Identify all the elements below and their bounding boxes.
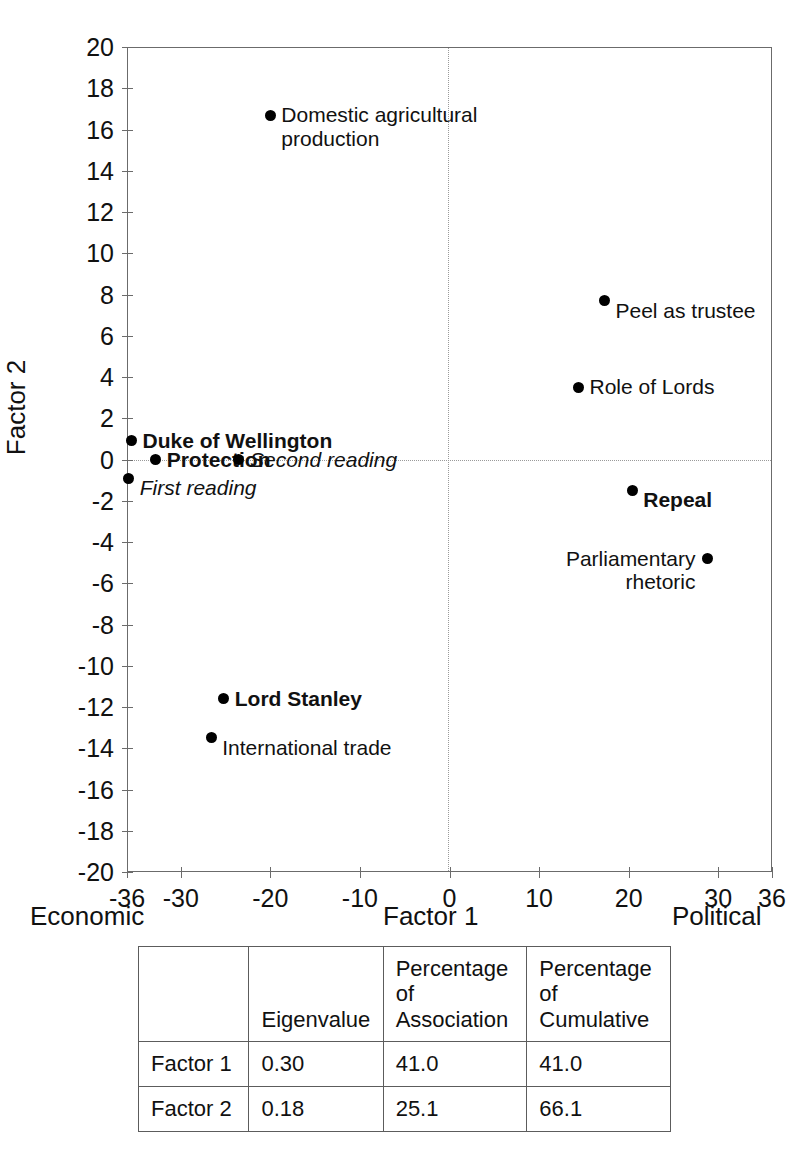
data-point-label: Domestic agricultural production: [281, 103, 477, 150]
y-tick: [122, 790, 133, 791]
x-axis-left-note: Economic: [30, 901, 144, 932]
y-tick: [122, 748, 133, 749]
x-tick: [718, 867, 719, 878]
y-tick: [122, 542, 133, 543]
x-tick: [127, 867, 128, 878]
y-tick: [122, 295, 133, 296]
y-tick: [122, 130, 133, 131]
cell-eigenvalue: 0.30: [249, 1041, 383, 1086]
y-tick-label: 8: [58, 283, 114, 308]
table-header-pct-association: Percentage of Association: [383, 947, 527, 1042]
y-tick: [122, 501, 133, 502]
x-axis-right-note: Political: [672, 901, 762, 932]
y-tick-label: 10: [58, 241, 114, 266]
y-tick: [122, 47, 133, 48]
x-tick-label: -30: [146, 886, 216, 911]
cell-eigenvalue: 0.18: [249, 1086, 383, 1131]
y-tick-label: -2: [58, 489, 114, 514]
y-tick-label: -4: [58, 530, 114, 555]
y-tick: [122, 583, 133, 584]
header-pct-cumulative-line1: Percentage of: [539, 956, 660, 1007]
data-point: [627, 485, 638, 496]
x-tick: [181, 867, 182, 878]
data-point: [573, 382, 584, 393]
table-header-row: Eigenvalue Percentage of Association Per…: [139, 947, 671, 1042]
table-row: Factor 1 0.30 41.0 41.0: [139, 1041, 671, 1086]
data-point-label: Repeal: [643, 488, 712, 512]
y-tick-label: 16: [58, 118, 114, 143]
x-tick-label: 10: [504, 886, 574, 911]
y-tick-label: 4: [58, 365, 114, 390]
cell-pct-association: 25.1: [383, 1086, 527, 1131]
y-tick: [122, 625, 133, 626]
y-tick-label: 2: [58, 406, 114, 431]
y-tick-label: -16: [58, 778, 114, 803]
data-point-label: International trade: [222, 736, 391, 760]
data-point-label: Parliamentary rhetoric: [566, 547, 696, 594]
x-tick: [270, 867, 271, 878]
data-point-label: Peel as trustee: [615, 299, 755, 323]
y-tick-label: -18: [58, 819, 114, 844]
data-point-label: Role of Lords: [590, 375, 715, 399]
table-header-eigenvalue: Eigenvalue: [249, 947, 383, 1042]
y-tick: [122, 253, 133, 254]
x-tick-label: -20: [235, 886, 305, 911]
header-pct-association-line2: Association: [396, 1007, 517, 1032]
x-tick: [450, 867, 451, 878]
y-tick: [122, 666, 133, 667]
data-point-label: First reading: [140, 476, 257, 500]
y-tick-label: -8: [58, 613, 114, 638]
y-tick-label: -12: [58, 695, 114, 720]
y-tick: [122, 212, 133, 213]
data-point: [702, 553, 713, 564]
y-tick: [122, 377, 133, 378]
y-tick-label: -6: [58, 571, 114, 596]
x-tick: [629, 867, 630, 878]
y-tick-label: 6: [58, 324, 114, 349]
row-label: Factor 2: [139, 1086, 249, 1131]
y-tick-label: -10: [58, 654, 114, 679]
eigenvalue-table: Eigenvalue Percentage of Association Per…: [138, 946, 671, 1132]
header-pct-association-line1: Percentage of: [396, 956, 517, 1007]
row-label: Factor 1: [139, 1041, 249, 1086]
y-tick: [122, 831, 133, 832]
data-point-label: Lord Stanley: [235, 687, 362, 711]
y-tick-label: -14: [58, 736, 114, 761]
cell-pct-cumulative: 66.1: [527, 1086, 671, 1131]
y-axis-title: Factor 2: [1, 328, 32, 488]
table-body: Factor 1 0.30 41.0 41.0 Factor 2 0.18 25…: [139, 1041, 671, 1131]
y-tick-label: 14: [58, 159, 114, 184]
header-pct-cumulative-line2: Cumulative: [539, 1007, 660, 1032]
data-point-label: Second reading: [250, 448, 397, 472]
y-tick-label: 18: [58, 76, 114, 101]
table-header-pct-cumulative: Percentage of Cumulative: [527, 947, 671, 1042]
y-tick: [122, 460, 133, 461]
x-tick: [772, 867, 773, 878]
cell-pct-cumulative: 41.0: [527, 1041, 671, 1086]
data-point: [265, 110, 276, 121]
x-tick: [539, 867, 540, 878]
y-tick: [122, 171, 133, 172]
y-tick: [122, 418, 133, 419]
y-tick-label: 0: [58, 448, 114, 473]
data-point: [123, 473, 134, 484]
y-tick-label: -20: [58, 860, 114, 885]
figure: Factor 2 -20-18-16-14-12-10-8-6-4-202468…: [0, 0, 811, 1175]
y-tick-label: 12: [58, 200, 114, 225]
x-tick: [360, 867, 361, 878]
y-tick-label: 20: [58, 35, 114, 60]
y-tick: [122, 88, 133, 89]
y-tick: [122, 707, 133, 708]
x-tick-label: 20: [594, 886, 664, 911]
header-eigenvalue-text: Eigenvalue: [261, 1007, 370, 1032]
table-row: Factor 2 0.18 25.1 66.1: [139, 1086, 671, 1131]
x-axis-title: Factor 1: [383, 901, 478, 932]
y-tick: [122, 336, 133, 337]
table-header-blank: [139, 947, 249, 1042]
cell-pct-association: 41.0: [383, 1041, 527, 1086]
